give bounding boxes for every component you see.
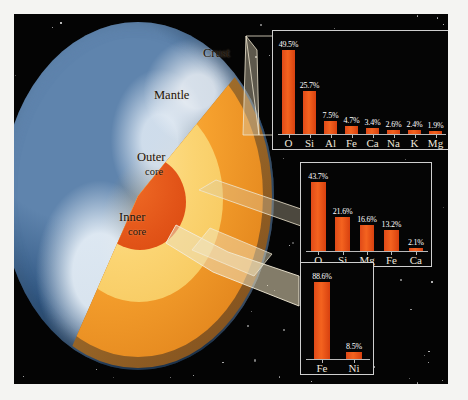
bar-value-label: 25.7%	[300, 81, 320, 90]
bar-value-label: 2.1%	[408, 238, 424, 247]
bar-column: 2.1%	[404, 238, 428, 251]
axis-tick-label: Ca	[362, 136, 383, 150]
bar	[282, 50, 294, 134]
axis-tick-label: O	[278, 136, 299, 150]
bar	[314, 282, 331, 359]
bar	[335, 217, 350, 251]
bar-column: 1.9%	[425, 121, 446, 134]
bar-value-label: 2.6%	[386, 120, 402, 129]
core-composition-chart: 88.6%8.5% FeNi	[300, 262, 374, 375]
bar-column: 4.7%	[341, 116, 362, 134]
bar-value-label: 2.4%	[407, 120, 423, 129]
bar-column: 21.6%	[330, 207, 354, 251]
core-chart-bars: 88.6%8.5%	[306, 267, 370, 359]
bar-value-label: 43.7%	[308, 172, 328, 181]
mantle-chart-bars: 43.7%21.6%16.6%13.2%2.1%	[306, 167, 428, 251]
axis-tick-label: Fe	[379, 253, 403, 267]
axis-tick-label: Al	[320, 136, 341, 150]
bar-value-label: 1.9%	[428, 121, 444, 130]
bar	[346, 352, 363, 359]
axis-tick-label: Mg	[425, 136, 446, 150]
earth-structure-figure: Crust Mantle Outer core Inner core 49.5%…	[0, 0, 468, 400]
bar	[324, 121, 336, 134]
bar-value-label: 88.6%	[312, 272, 332, 281]
bar	[360, 225, 375, 251]
bar	[345, 126, 357, 134]
bar-value-label: 13.2%	[382, 220, 402, 229]
bar-value-label: 21.6%	[333, 207, 353, 216]
mantle-chart-plot: 43.7%21.6%16.6%13.2%2.1% OSiMgFeCa	[301, 163, 431, 266]
bar-column: 16.6%	[355, 215, 379, 251]
crust-chart-xlabels: OSiAlFeCaNaKMg	[278, 136, 446, 150]
leader-wedge-mantle	[199, 180, 301, 226]
bar-column: 2.6%	[383, 120, 404, 134]
core-chart-xlabels: FeNi	[306, 361, 370, 375]
axis-tick-label: Si	[299, 136, 320, 150]
crust-chart-plot: 49.5%25.7%7.5%4.7%3.4%2.6%2.4%1.9% OSiAl…	[273, 31, 448, 149]
bar-value-label: 4.7%	[344, 116, 360, 125]
axis-tick-label: Na	[383, 136, 404, 150]
bar-value-label: 16.6%	[357, 215, 377, 224]
bar-column: 2.4%	[404, 120, 425, 134]
core-chart-plot: 88.6%8.5% FeNi	[301, 263, 373, 374]
crust-chart-bars: 49.5%25.7%7.5%4.7%3.4%2.6%2.4%1.9%	[278, 35, 446, 134]
bar-column: 13.2%	[379, 220, 403, 251]
bar-column: 88.6%	[306, 272, 338, 359]
leader-wedge-crust	[243, 36, 259, 135]
bar-value-label: 3.4%	[365, 118, 381, 127]
mantle-composition-chart: 43.7%21.6%16.6%13.2%2.1% OSiMgFeCa	[300, 162, 432, 267]
bar-column: 43.7%	[306, 172, 330, 251]
bar-column: 7.5%	[320, 111, 341, 134]
axis-tick-label: Fe	[341, 136, 362, 150]
bar	[311, 182, 326, 251]
bar	[303, 91, 315, 135]
bar-value-label: 8.5%	[346, 342, 362, 351]
bar-value-label: 49.5%	[279, 40, 299, 49]
bar-column: 3.4%	[362, 118, 383, 134]
axis-tick-label: Ca	[404, 253, 428, 267]
axis-tick-label: K	[404, 136, 425, 150]
bar-column: 8.5%	[338, 342, 370, 359]
bar-value-label: 7.5%	[323, 111, 339, 120]
bar-column: 25.7%	[299, 81, 320, 135]
bar-column: 49.5%	[278, 40, 299, 134]
bar	[384, 230, 399, 251]
space-background: Crust Mantle Outer core Inner core 49.5%…	[14, 14, 448, 384]
axis-tick-label: Fe	[306, 361, 338, 375]
axis-tick-label: Ni	[338, 361, 370, 375]
crust-composition-chart: 49.5%25.7%7.5%4.7%3.4%2.6%2.4%1.9% OSiAl…	[272, 30, 448, 150]
